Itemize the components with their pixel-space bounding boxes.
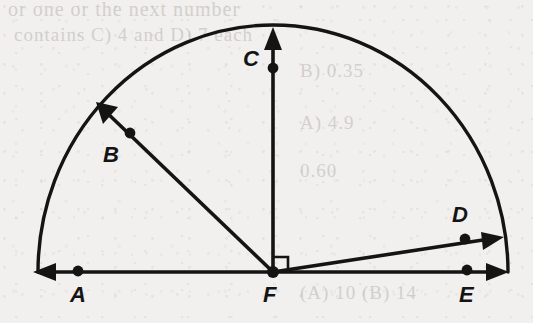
ray-FD-arrowhead <box>481 232 504 250</box>
ray-FE-arrowhead <box>486 263 509 281</box>
point-label-F: F <box>263 284 276 306</box>
point-C-dot <box>268 63 279 74</box>
ray-FC-arrowhead <box>264 27 282 50</box>
point-label-D: D <box>452 204 468 226</box>
point-label-A: A <box>70 284 86 306</box>
point-A-dot <box>73 266 84 277</box>
geometry-figure: or one or the next number contains C) 4 … <box>0 0 533 323</box>
point-D-dot <box>460 234 471 245</box>
geometry-drawing <box>0 0 533 323</box>
point-F-dot <box>267 266 279 278</box>
point-E-dot <box>462 265 473 276</box>
point-label-C: C <box>243 48 259 70</box>
point-B-dot <box>125 128 136 139</box>
point-label-E: E <box>459 284 474 306</box>
point-label-B: B <box>103 144 119 166</box>
